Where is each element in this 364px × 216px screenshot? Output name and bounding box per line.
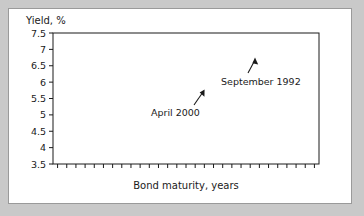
y-tick-label: 7 (40, 44, 46, 55)
annotation-label-september-1992: September 1992 (221, 76, 301, 87)
chart-canvas: Yield, % 3.544.555.566.577.5 September 1… (9, 9, 353, 205)
y-tick-label: 3.5 (31, 159, 46, 170)
y-tick-label: 4 (40, 142, 46, 153)
yield-curve-chart: Yield, % 3.544.555.566.577.5 September 1… (9, 9, 353, 205)
y-tick-label: 4.5 (31, 126, 46, 137)
x-axis-title: Bond maturity, years (133, 180, 239, 191)
x-axis-ticks (58, 164, 315, 168)
chart-axis-title: Yield, % (25, 15, 66, 26)
plot-frame (53, 33, 319, 164)
y-axis-ticks: 3.544.555.566.577.5 (31, 28, 53, 170)
y-tick-label: 6.5 (31, 60, 46, 71)
y-tick-label: 7.5 (31, 28, 46, 39)
annotation-arrow-head (252, 58, 258, 65)
annotation-label-april-2000: April 2000 (151, 107, 200, 118)
y-tick-label: 5.5 (31, 93, 46, 104)
annotation-april-2000: April 2000 (151, 90, 205, 118)
annotation-september-1992: September 1992 (221, 58, 301, 88)
plot-border (53, 33, 319, 164)
y-tick-label: 6 (40, 77, 46, 88)
figure-card: Yield, % 3.544.555.566.577.5 September 1… (8, 8, 352, 204)
y-tick-label: 5 (40, 109, 46, 120)
